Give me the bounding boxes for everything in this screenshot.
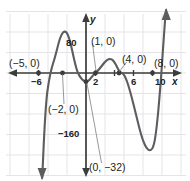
y-axis-name-label: y <box>90 15 96 25</box>
label-root-neg-two: (−2, 0) <box>48 104 79 115</box>
label-root-one: (1, 0) <box>91 36 116 47</box>
label-y-intercept: (0, −32) <box>89 162 125 173</box>
label-root-four: (4, 0) <box>122 54 147 65</box>
coordinate-plane-figure: (−5, 0) (−2, 0) (1, 0) (4, 0) (8, 0) (0,… <box>0 0 190 181</box>
root-marker-8 <box>150 71 155 76</box>
graph-canvas <box>0 0 190 181</box>
x-tick-label-6: 6 <box>131 77 136 87</box>
root-marker-1 <box>93 71 98 76</box>
root-marker-4 <box>117 71 122 76</box>
y-tick-label-80: 80 <box>66 38 77 48</box>
y-intercept-marker <box>84 79 89 84</box>
y-tick-label-neg160: −160 <box>58 129 79 139</box>
x-axis-name-label: x <box>172 77 178 87</box>
root-marker-neg5 <box>36 71 41 76</box>
label-root-eight: (8, 0) <box>154 58 179 69</box>
x-tick-label-10: 10 <box>155 77 166 87</box>
x-tick-label-2: 2 <box>93 77 98 87</box>
label-root-neg-five: (−5, 0) <box>9 58 40 69</box>
x-tick-label-neg6: −6 <box>31 77 42 87</box>
